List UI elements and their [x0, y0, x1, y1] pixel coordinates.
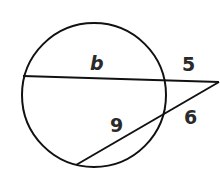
- secant-diagram: b 5 9 6: [0, 0, 220, 171]
- label-external-bottom: 6: [184, 106, 197, 128]
- label-external-top: 5: [182, 53, 195, 75]
- secant-bottom: [76, 82, 219, 165]
- label-b: b: [90, 52, 104, 74]
- label-internal-bottom: 9: [110, 114, 123, 136]
- circle: [22, 23, 166, 167]
- secant-top: [23, 76, 219, 82]
